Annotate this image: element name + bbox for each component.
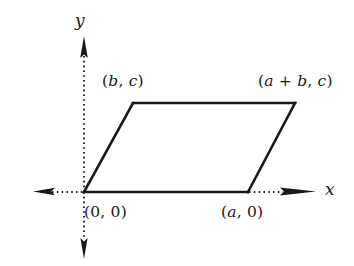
vertex-label-top-right: (a + b, c) xyxy=(258,74,333,90)
parallelogram-outline xyxy=(84,103,295,192)
y-axis-arrow-up-icon xyxy=(80,36,88,58)
y-axis-label: y xyxy=(75,12,85,29)
vertex-label-origin: (0, 0) xyxy=(84,205,127,221)
vertex-top-right-marker xyxy=(294,102,297,105)
x-axis-label: x xyxy=(325,181,335,198)
geometry-figure: (b, c) (a + b, c) (0, 0) (a, 0) y x xyxy=(0,0,354,266)
y-axis-arrow-down-icon xyxy=(80,238,87,259)
x-axis-arrow-left-icon xyxy=(33,188,55,196)
vertex-top-left-marker xyxy=(132,102,135,105)
x-axis-arrow-right-icon xyxy=(280,188,316,196)
vertex-bottom-right-marker xyxy=(247,191,250,194)
vertex-markers xyxy=(83,102,297,194)
y-axis xyxy=(80,36,88,259)
vertex-label-top-left: (b, c) xyxy=(102,74,144,90)
vertex-origin-marker xyxy=(83,191,86,194)
vertex-label-bottom-right: (a, 0) xyxy=(221,205,263,221)
figure-canvas xyxy=(0,0,354,266)
